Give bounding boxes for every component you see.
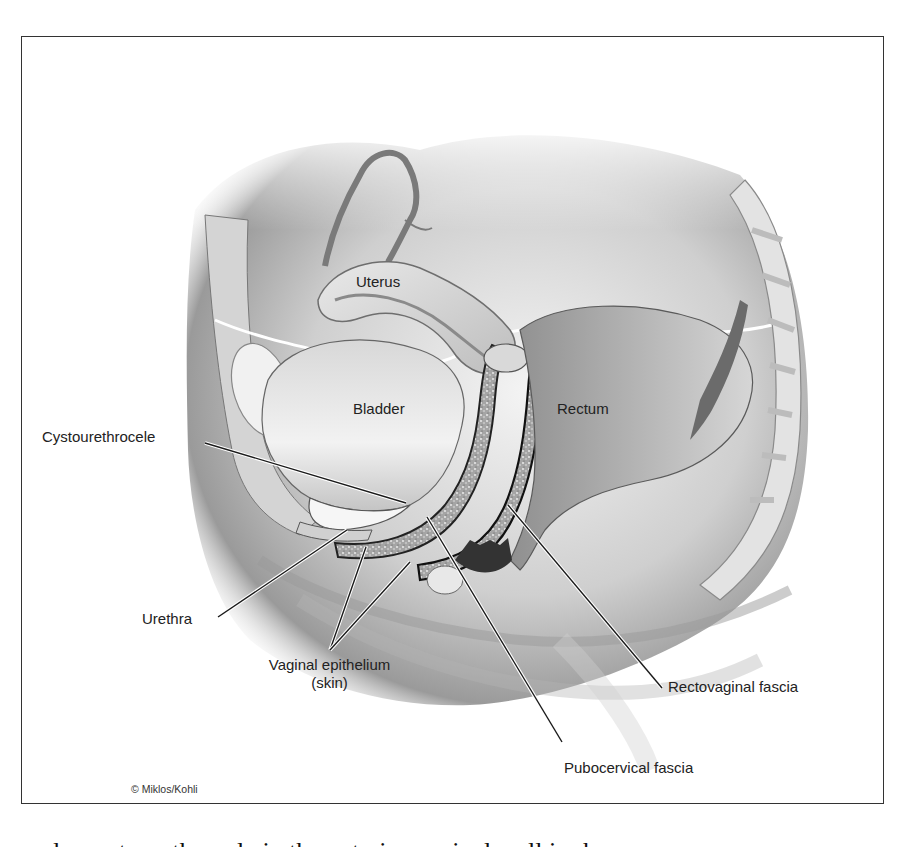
label-vaginal-epithelium-line1: Vaginal epithelium: [237, 656, 422, 674]
pelvic-anatomy-illustration: [0, 0, 906, 847]
copyright-notice: © Miklos/Kohli: [131, 783, 198, 795]
caption-fragment: and a cystourethrocele in the anterior v…: [22, 838, 902, 847]
label-cystourethrocele: Cystourethrocele: [42, 428, 155, 446]
label-rectovaginal-fascia: Rectovaginal fascia: [668, 678, 798, 696]
label-vaginal-epithelium: Vaginal epithelium (skin): [237, 656, 422, 692]
label-bladder: Bladder: [353, 400, 405, 418]
label-urethra: Urethra: [142, 610, 192, 628]
label-uterus: Uterus: [356, 273, 400, 291]
bladder: [262, 340, 464, 511]
label-rectum: Rectum: [557, 400, 609, 418]
label-vaginal-epithelium-line2: (skin): [237, 674, 422, 692]
cervix: [484, 344, 528, 372]
label-pubocervical-fascia: Pubocervical fascia: [564, 759, 693, 777]
